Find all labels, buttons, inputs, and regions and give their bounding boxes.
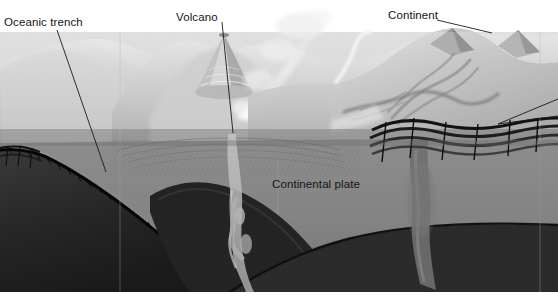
water-haze-scrim <box>0 32 558 129</box>
label-continent: Continent <box>388 10 438 22</box>
bottom-white-margin <box>0 292 558 301</box>
magma-diapir <box>407 162 435 238</box>
label-oceanic-trench: Oceanic trench <box>4 17 83 29</box>
label-volcano: Volcano <box>176 12 218 24</box>
diagram-artwork <box>0 0 558 301</box>
basement-texture <box>220 222 558 292</box>
block-top-shadow <box>0 140 558 146</box>
plate-tectonics-diagram: Oceanic trench Volcano Continent Contine… <box>0 0 558 301</box>
label-continental-plate: Continental plate <box>272 179 360 191</box>
